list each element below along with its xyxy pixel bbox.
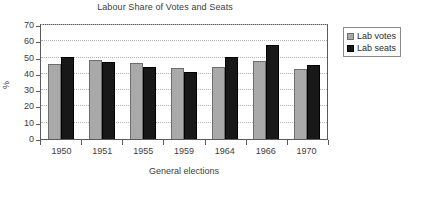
bar-seats-1964[interactable] — [225, 57, 238, 139]
y-axis-tick-label: 50 — [8, 53, 34, 63]
chart-title: Labour Share of Votes and Seats — [0, 2, 330, 12]
y-axis-tick-label: 0 — [8, 134, 34, 144]
x-axis-label: General elections — [40, 166, 328, 176]
x-axis-tick-mark — [163, 140, 164, 145]
bar-group — [286, 25, 327, 139]
legend-label: Lab seats — [357, 43, 396, 53]
legend-label: Lab votes — [357, 31, 396, 41]
bar-seats-1966[interactable] — [266, 45, 279, 139]
bar-group — [245, 25, 286, 139]
bar-votes-1950[interactable] — [48, 64, 61, 139]
x-axis-tick-label: 1950 — [41, 146, 82, 156]
bars-container — [41, 25, 327, 139]
legend-swatch-icon — [347, 45, 354, 52]
y-axis-tick-label: 20 — [8, 101, 34, 111]
x-axis-tick-label: 1970 — [286, 146, 327, 156]
bar-seats-1959[interactable] — [184, 72, 197, 139]
legend-item-seats[interactable]: Lab seats — [347, 43, 396, 53]
bar-seats-1951[interactable] — [102, 62, 115, 139]
y-axis-tick-label: 60 — [8, 36, 34, 46]
legend-swatch-icon — [347, 33, 354, 40]
x-axis-tick-mark — [246, 140, 247, 145]
bar-votes-1964[interactable] — [212, 67, 225, 139]
x-axis-tick-label: 1964 — [204, 146, 245, 156]
bar-seats-1955[interactable] — [143, 67, 156, 139]
legend-item-votes[interactable]: Lab votes — [347, 31, 396, 41]
bar-votes-1951[interactable] — [89, 60, 102, 139]
x-axis-ticks — [40, 140, 328, 145]
bar-group — [41, 25, 82, 139]
y-axis-tick-label: 30 — [8, 85, 34, 95]
bar-group — [204, 25, 245, 139]
bar-votes-1970[interactable] — [294, 69, 307, 139]
chart-legend: Lab votesLab seats — [343, 27, 401, 57]
x-axis-tick-mark — [81, 140, 82, 145]
bar-group — [164, 25, 205, 139]
bar-chart: Labour Share of Votes and Seats % 010203… — [0, 0, 424, 200]
bar-seats-1970[interactable] — [307, 65, 320, 139]
x-axis-tick-mark — [287, 140, 288, 145]
x-axis-tick-mark — [205, 140, 206, 145]
x-axis-tick-mark — [328, 140, 329, 145]
x-axis-tick-label: 1951 — [82, 146, 123, 156]
y-axis-tick-label: 40 — [8, 69, 34, 79]
x-axis-tick-labels: 1950195119551959196419661970 — [41, 146, 327, 156]
y-axis-tick-label: 70 — [8, 20, 34, 30]
x-axis-tick-label: 1959 — [164, 146, 205, 156]
x-axis-tick-label: 1955 — [123, 146, 164, 156]
bar-votes-1966[interactable] — [253, 61, 266, 139]
y-axis-ticks: 010203040506070 — [0, 24, 40, 140]
y-axis-tick-label: 10 — [8, 118, 34, 128]
bar-votes-1955[interactable] — [130, 63, 143, 139]
bar-group — [123, 25, 164, 139]
x-axis-tick-label: 1966 — [245, 146, 286, 156]
bar-group — [82, 25, 123, 139]
bar-seats-1950[interactable] — [61, 57, 74, 139]
x-axis-tick-mark — [40, 140, 41, 145]
bar-votes-1959[interactable] — [171, 68, 184, 139]
x-axis-tick-mark — [122, 140, 123, 145]
